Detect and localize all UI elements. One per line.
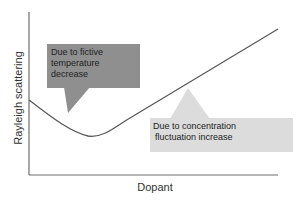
callout-fluctuation-text: Due to concentration fluctuation increas… — [153, 121, 291, 143]
callout-fictive-line-3: decrease — [51, 69, 139, 80]
callout-fluctuation-line-2: fluctuation increase — [153, 132, 291, 143]
callout-fictive-line-2: temperature — [51, 58, 139, 69]
callout-fictive-line-1: Due to fictive — [51, 47, 139, 58]
callout-fluctuation-line-1: Due to concentration — [153, 121, 291, 132]
y-axis-label: Rayleigh scattering — [12, 48, 24, 148]
chart-canvas — [0, 0, 300, 202]
callout-fictive-text: Due to fictive temperature decrease — [51, 47, 139, 80]
x-axis-label: Dopant — [0, 181, 300, 193]
